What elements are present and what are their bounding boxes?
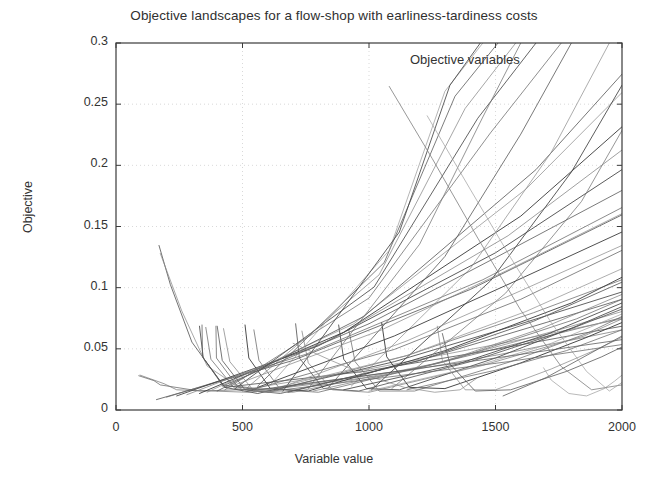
y-tick-label: 0.25	[48, 95, 108, 109]
y-tick-label: 0.3	[48, 34, 108, 48]
chart-figure: Objective landscapes for a flow-shop wit…	[0, 0, 668, 483]
data-curves	[139, 43, 622, 400]
x-tick-label: 2000	[592, 420, 652, 434]
y-tick-label: 0.2	[48, 156, 108, 170]
y-tick-label: 0.05	[48, 340, 108, 354]
x-tick-label: 1500	[466, 420, 526, 434]
y-tick-label: 0.15	[48, 218, 108, 232]
x-tick-label: 1000	[339, 420, 399, 434]
x-tick-label: 0	[86, 420, 146, 434]
y-axis-title: Objective	[21, 157, 35, 257]
y-tick-label: 0.1	[48, 279, 108, 293]
x-tick-label: 500	[213, 420, 273, 434]
y-tick-label: 0	[48, 401, 108, 415]
x-axis-title: Variable value	[0, 452, 668, 466]
legend-label: Objective variables	[410, 52, 520, 67]
